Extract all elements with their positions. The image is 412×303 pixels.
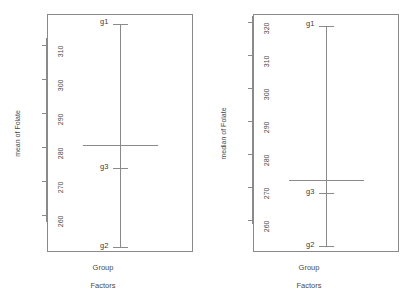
- point-label-g2-left: g2: [100, 242, 108, 250]
- point-label-g3-right: g3: [306, 188, 314, 196]
- y-tick-310: [42, 45, 46, 46]
- interval-cap-g2-left: [113, 247, 128, 248]
- y-tick-label-300: 300: [57, 80, 64, 100]
- y-tick-label-280: 280: [57, 148, 64, 168]
- interval-cap-g1-left: [113, 24, 128, 25]
- y-tick-310: [248, 55, 252, 56]
- point-label-g2-right: g2: [306, 241, 314, 249]
- panel-median-of-folate: 320 310 300 290 280 270 260 median of Fo…: [206, 0, 412, 303]
- y-tick-300: [248, 88, 252, 89]
- y-tick-label-300: 300: [263, 89, 270, 109]
- y-tick-320: [248, 22, 252, 23]
- outer-x-axis-title-right: Factors: [206, 282, 412, 290]
- y-tick-label-290: 290: [263, 122, 270, 142]
- interval-cap-g3-right: [319, 193, 334, 194]
- y-axis-title-left: mean of Folate: [14, 104, 21, 164]
- y-tick-label-310: 310: [57, 46, 64, 66]
- x-axis-title-right: Group: [206, 264, 412, 272]
- y-tick-280: [248, 154, 252, 155]
- y-tick-270: [42, 181, 46, 182]
- point-label-g3-left: g3: [100, 163, 108, 171]
- y-tick-label-270: 270: [57, 182, 64, 202]
- point-label-g1-right: g1: [306, 20, 314, 28]
- y-tick-260: [42, 215, 46, 216]
- interval-cap-g3-left: [113, 168, 128, 169]
- y-tick-300: [42, 79, 46, 80]
- y-tick-label-320: 320: [263, 23, 270, 43]
- y-tick-label-260: 260: [263, 221, 270, 241]
- y-axis-line-right: [252, 16, 253, 224]
- interval-vertical-line-left: [120, 24, 121, 247]
- y-tick-label-270: 270: [263, 188, 270, 208]
- y-tick-label-260: 260: [57, 216, 64, 236]
- interval-cap-g1-right: [319, 26, 334, 27]
- y-tick-290: [42, 113, 46, 114]
- interaction-plot-figure: 310 300 290 280 270 260 mean of Folate g…: [0, 0, 412, 303]
- y-tick-label-310: 310: [263, 56, 270, 76]
- point-label-g1-left: g1: [100, 18, 108, 26]
- y-tick-280: [42, 147, 46, 148]
- x-axis-title-left: Group: [0, 264, 206, 272]
- y-axis-line-left: [46, 38, 47, 222]
- y-tick-label-290: 290: [57, 114, 64, 134]
- y-tick-260: [248, 220, 252, 221]
- y-tick-270: [248, 187, 252, 188]
- y-tick-290: [248, 121, 252, 122]
- center-reference-line-right: [289, 180, 364, 181]
- y-axis-title-right: median of Folate: [220, 101, 227, 167]
- center-reference-line-left: [83, 145, 158, 146]
- outer-x-axis-title-left: Factors: [0, 282, 206, 290]
- interval-vertical-line-right: [326, 26, 327, 246]
- y-tick-label-280: 280: [263, 155, 270, 175]
- panel-mean-of-folate: 310 300 290 280 270 260 mean of Folate g…: [0, 0, 206, 303]
- interval-cap-g2-right: [319, 246, 334, 247]
